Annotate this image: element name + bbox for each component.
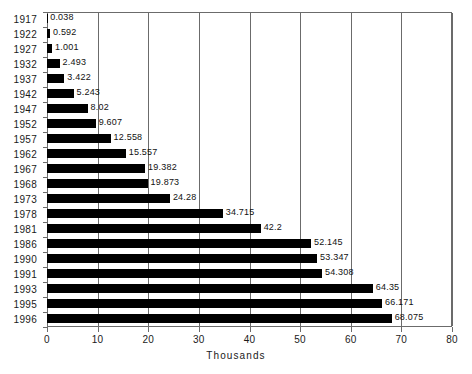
y-axis-tick bbox=[43, 27, 47, 28]
bar-value-label: 53.347 bbox=[320, 251, 349, 264]
bar bbox=[47, 179, 148, 188]
y-axis-tick bbox=[43, 192, 47, 193]
bar-row: 53.347 bbox=[47, 252, 452, 267]
x-axis-tick bbox=[401, 327, 402, 332]
bar-value-label: 0.592 bbox=[53, 26, 77, 39]
y-axis-label: 1952 bbox=[14, 117, 37, 132]
y-axis-label: 1937 bbox=[14, 72, 37, 87]
bar-value-label: 9.607 bbox=[99, 116, 123, 129]
bar-value-label: 15.557 bbox=[129, 146, 158, 159]
x-axis-label: 0 bbox=[44, 333, 50, 347]
y-axis-tick bbox=[43, 297, 47, 298]
bar-row: 0.592 bbox=[47, 27, 452, 42]
y-axis-tick bbox=[43, 177, 47, 178]
bar bbox=[47, 314, 392, 323]
bar-row: 1.001 bbox=[47, 42, 452, 57]
bar-value-label: 2.493 bbox=[63, 56, 87, 69]
y-axis-tick bbox=[43, 312, 47, 313]
bar-row: 15.557 bbox=[47, 147, 452, 162]
bar bbox=[47, 149, 126, 158]
bar-value-label: 12.558 bbox=[114, 131, 143, 144]
bar-row: 12.558 bbox=[47, 132, 452, 147]
bar bbox=[47, 299, 382, 308]
y-axis-tick bbox=[43, 237, 47, 238]
x-axis-tick bbox=[98, 327, 99, 332]
bar bbox=[47, 224, 261, 233]
bar-value-label: 0.038 bbox=[50, 11, 74, 24]
bar-row: 34.715 bbox=[47, 207, 452, 222]
y-axis-label: 1947 bbox=[14, 102, 37, 117]
bar bbox=[47, 284, 373, 293]
bar-value-label: 34.715 bbox=[226, 206, 255, 219]
bar-row: 19.382 bbox=[47, 162, 452, 177]
y-axis-label: 1986 bbox=[14, 237, 37, 252]
x-axis-label: 30 bbox=[193, 333, 205, 347]
y-axis-tick bbox=[43, 267, 47, 268]
y-axis-tick bbox=[43, 162, 47, 163]
bar-value-label: 8.02 bbox=[91, 101, 109, 114]
bar bbox=[47, 29, 50, 38]
y-axis-tick bbox=[43, 117, 47, 118]
bar-row: 54.308 bbox=[47, 267, 452, 282]
bar-row: 9.607 bbox=[47, 117, 452, 132]
x-axis-tick bbox=[47, 327, 48, 332]
bar-row: 3.422 bbox=[47, 72, 452, 87]
bar-value-label: 3.422 bbox=[67, 71, 91, 84]
x-axis-label: 70 bbox=[396, 333, 408, 347]
bar bbox=[47, 209, 223, 218]
bar-row: 2.493 bbox=[47, 57, 452, 72]
y-axis-label: 1968 bbox=[14, 177, 37, 192]
y-axis-tick bbox=[43, 132, 47, 133]
y-axis-label: 1990 bbox=[14, 252, 37, 267]
x-axis-label: 80 bbox=[446, 333, 458, 347]
bar-value-label: 19.873 bbox=[151, 176, 180, 189]
y-axis-tick bbox=[43, 12, 47, 13]
bar-row: 66.171 bbox=[47, 297, 452, 312]
y-axis-tick bbox=[43, 207, 47, 208]
bar-value-label: 19.382 bbox=[148, 161, 177, 174]
x-axis-label: 10 bbox=[92, 333, 104, 347]
bar bbox=[47, 74, 64, 83]
y-axis-label: 1932 bbox=[14, 57, 37, 72]
bar bbox=[47, 119, 96, 128]
y-axis-tick bbox=[43, 72, 47, 73]
y-axis-tick bbox=[43, 57, 47, 58]
y-axis-category-labels: 1917192219271932193719421947195219571962… bbox=[0, 12, 43, 327]
x-axis-tick bbox=[148, 327, 149, 332]
y-axis-tick bbox=[43, 87, 47, 88]
bar-row: 19.873 bbox=[47, 177, 452, 192]
gridline bbox=[452, 13, 453, 326]
x-axis-title: Thousands bbox=[0, 350, 472, 361]
y-axis-label: 1973 bbox=[14, 192, 37, 207]
y-axis-tick bbox=[43, 282, 47, 283]
bar-value-label: 42.2 bbox=[264, 221, 282, 234]
y-axis-label: 1962 bbox=[14, 147, 37, 162]
x-axis-tick-labels: 01020304050607080 bbox=[47, 333, 452, 347]
bar bbox=[47, 194, 170, 203]
x-axis-label: 60 bbox=[345, 333, 357, 347]
x-axis-label: 50 bbox=[294, 333, 306, 347]
y-axis-label: 1993 bbox=[14, 282, 37, 297]
y-axis-label: 1995 bbox=[14, 297, 37, 312]
bar-row: 8.02 bbox=[47, 102, 452, 117]
y-axis-label: 1978 bbox=[14, 207, 37, 222]
bars-container: 0.0380.5921.0012.4933.4225.2438.029.6071… bbox=[47, 12, 452, 327]
bar bbox=[47, 269, 322, 278]
x-axis-label: 20 bbox=[142, 333, 154, 347]
bar bbox=[47, 164, 145, 173]
y-axis-label: 1917 bbox=[14, 12, 37, 27]
bar bbox=[47, 104, 88, 113]
y-axis-label: 1991 bbox=[14, 267, 37, 282]
x-axis-tick bbox=[250, 327, 251, 332]
x-axis-label: 40 bbox=[244, 333, 256, 347]
bar-value-label: 68.075 bbox=[395, 311, 424, 324]
bar-value-label: 64.35 bbox=[376, 281, 400, 294]
bar-chart: 0.0380.5921.0012.4933.4225.2438.029.6071… bbox=[0, 0, 472, 374]
bar-value-label: 54.308 bbox=[325, 266, 354, 279]
y-axis-label: 1927 bbox=[14, 42, 37, 57]
bar bbox=[47, 134, 111, 143]
bar bbox=[47, 254, 317, 263]
bar-row: 42.2 bbox=[47, 222, 452, 237]
x-axis-tick bbox=[199, 327, 200, 332]
y-axis-tick bbox=[43, 42, 47, 43]
